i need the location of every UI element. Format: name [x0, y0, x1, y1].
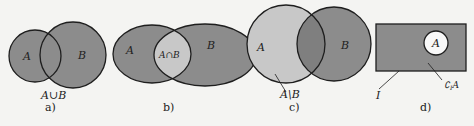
panel-b-intersection: A B A∩B b) — [113, 24, 256, 114]
set-b-label: B — [206, 39, 215, 52]
universe-pointer-line — [379, 71, 399, 89]
set-a-label: A — [256, 41, 265, 54]
panel-c-difference: A B A\B c) — [247, 5, 371, 114]
universe-label: I — [375, 89, 381, 102]
complement-label: ∁IA — [444, 80, 459, 91]
set-b-label: B — [340, 39, 349, 52]
difference-label: A\B — [279, 88, 300, 101]
venn-diagram-figure: A B A∪B a) A B A∩B b) A — [0, 0, 474, 126]
caption-b: b) — [163, 101, 174, 114]
caption-d: d) — [420, 101, 431, 114]
universe-rectangle — [376, 24, 466, 71]
intersection-label: A∩B — [158, 50, 180, 60]
panel-a-union: A B A∪B a) — [9, 22, 106, 114]
caption-c: c) — [289, 101, 299, 114]
set-b-label: B — [77, 49, 86, 62]
set-a-label: A — [22, 50, 31, 63]
caption-a: a) — [45, 101, 56, 114]
panel-d-complement: A ∁IA I d) — [375, 24, 466, 114]
set-a-label: A — [431, 37, 440, 50]
set-a-label: A — [125, 44, 134, 57]
